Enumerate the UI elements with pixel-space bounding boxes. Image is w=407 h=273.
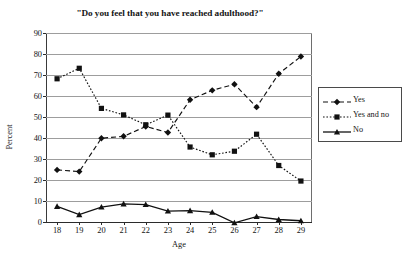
data-point	[54, 167, 60, 173]
y-tick-label: 20	[34, 176, 42, 185]
data-point	[232, 149, 237, 154]
data-point	[76, 168, 82, 174]
x-tick-label: 18	[53, 226, 61, 235]
data-point	[231, 81, 237, 87]
x-tick-label: 25	[208, 226, 216, 235]
data-point	[98, 135, 104, 141]
series-line	[57, 204, 301, 223]
x-tick-mark	[168, 222, 169, 225]
x-tick-label: 21	[119, 226, 127, 235]
x-tick-label: 22	[142, 226, 150, 235]
y-axis-label: Percent	[5, 124, 14, 149]
x-tick-mark	[79, 222, 80, 225]
x-axis-label: Age	[46, 240, 312, 249]
data-point	[121, 112, 126, 117]
legend-label: No	[353, 125, 363, 134]
y-tick-label: 50	[34, 113, 42, 122]
series-no	[54, 201, 304, 225]
data-point	[187, 144, 192, 149]
data-point	[99, 106, 104, 111]
legend-swatch-diamond-icon	[322, 94, 352, 106]
y-tick-label: 80	[34, 50, 42, 59]
x-tick-label: 23	[164, 226, 172, 235]
x-tick-label: 20	[97, 226, 105, 235]
data-point	[54, 203, 60, 209]
y-tick-label: 0	[38, 218, 42, 227]
data-point	[298, 178, 303, 183]
x-tick-mark	[279, 222, 280, 225]
x-tick-mark	[257, 222, 258, 225]
y-tick-label: 90	[34, 29, 42, 38]
legend-swatch-square-icon	[322, 109, 352, 121]
chart-legend: YesYes and noNo	[318, 87, 402, 142]
series-layer	[46, 33, 312, 222]
legend-item-no[interactable]: No	[319, 122, 401, 137]
legend-item-yes-and-no[interactable]: Yes and no	[319, 107, 401, 122]
x-tick-mark	[101, 222, 102, 225]
y-tick-label: 60	[34, 92, 42, 101]
x-tick-label: 27	[252, 226, 260, 235]
legend-label: Yes	[353, 95, 365, 104]
data-point	[187, 97, 193, 103]
x-tick-label: 28	[275, 226, 283, 235]
data-point	[165, 113, 170, 118]
data-point	[165, 129, 171, 135]
chart-figure: "Do you feel that you have reached adult…	[0, 0, 407, 273]
data-point	[276, 163, 281, 168]
y-tick-mark	[43, 222, 46, 223]
data-point	[276, 71, 282, 77]
chart-title: "Do you feel that you have reached adult…	[0, 8, 340, 18]
x-tick-label: 19	[75, 226, 83, 235]
series-yes	[54, 53, 304, 174]
legend-label: Yes and no	[353, 110, 389, 119]
data-point	[253, 104, 259, 110]
x-tick-mark	[57, 222, 58, 225]
plot-area: 0102030405060708090 18192021222324252627…	[46, 33, 312, 222]
series-line	[57, 68, 301, 181]
data-point	[254, 132, 259, 137]
y-tick-label: 40	[34, 134, 42, 143]
data-point	[209, 87, 215, 93]
legend-swatch-triangle-icon	[322, 124, 352, 136]
data-point	[54, 76, 59, 81]
data-point	[143, 122, 148, 127]
x-tick-mark	[146, 222, 147, 225]
y-tick-label: 70	[34, 71, 42, 80]
x-tick-label: 24	[186, 226, 194, 235]
x-tick-label: 26	[230, 226, 238, 235]
series-line	[57, 57, 301, 172]
series-yes-and-no	[54, 66, 303, 184]
gridline-0	[46, 222, 312, 223]
data-point	[120, 133, 126, 139]
data-point	[77, 66, 82, 71]
x-tick-mark	[124, 222, 125, 225]
x-tick-mark	[212, 222, 213, 225]
x-tick-label: 29	[297, 226, 305, 235]
data-point	[210, 152, 215, 157]
legend-item-yes[interactable]: Yes	[319, 92, 401, 107]
y-tick-label: 30	[34, 155, 42, 164]
y-tick-label: 10	[34, 197, 42, 206]
x-tick-mark	[190, 222, 191, 225]
